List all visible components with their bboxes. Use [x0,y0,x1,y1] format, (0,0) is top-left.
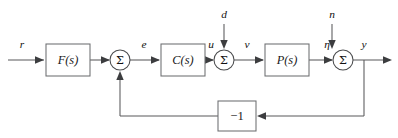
signal-label-control: u [208,38,214,50]
summing-junction-noise[interactable]: Σ [333,50,353,70]
diagram-canvas: F(s) C(s) P(s) −1 Σ Σ Σ r [0,0,398,138]
arrowhead-into-gain [257,112,266,119]
signal-label-plant-input: v [244,38,250,50]
sum-disturbance-symbol: Σ [220,54,228,67]
arrowhead-feedback-up [116,71,123,80]
block-prefilter[interactable]: F(s) [46,44,90,76]
arrowhead-into-sum-noise [324,56,333,63]
arrowhead-into-plant [255,56,264,63]
signal-label-reference: r [20,38,25,50]
arrowhead-disturbance-down [220,40,227,49]
plant-label: P(s) [276,53,298,67]
block-controller[interactable]: C(s) [161,44,205,76]
signal-label-error: e [141,38,146,50]
prefilter-label: F(s) [57,53,79,67]
arrowhead-into-sum-disturbance [205,56,214,63]
arrowhead-into-controller [151,56,160,63]
block-feedback-gain[interactable]: −1 [218,101,256,131]
block-plant[interactable]: P(s) [265,44,309,76]
signal-label-plant-output: η [324,38,330,50]
signal-label-output: y [360,38,367,50]
sum-noise-symbol: Σ [339,54,347,67]
controller-label: C(s) [172,53,193,67]
arrowhead-into-sum-error [101,56,110,63]
summing-junction-error[interactable]: Σ [110,50,130,70]
sum-error-symbol: Σ [116,54,124,67]
feedback-gain-label: −1 [230,109,243,123]
block-diagram-figure: F(s) C(s) P(s) −1 Σ Σ Σ r [0,0,398,138]
signal-label-noise: n [329,8,335,20]
signal-label-disturbance: d [221,8,227,20]
arrowhead-into-prefilter [35,56,44,63]
summing-junction-disturbance[interactable]: Σ [214,50,234,70]
arrowhead-output [383,56,392,63]
signal-labels: r e u v d η n y [20,8,368,50]
